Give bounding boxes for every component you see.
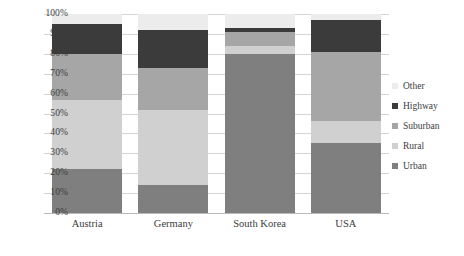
y-tick-label: 90% [30, 29, 68, 39]
x-axis-label-usa: USA [311, 218, 381, 229]
gridline-0 [44, 213, 389, 214]
legend-item-urban[interactable]: Urban [392, 156, 462, 176]
bar-segment-highway[interactable] [138, 30, 208, 68]
plot-area [44, 14, 389, 213]
x-axis-label-austria: Austria [52, 218, 122, 229]
legend-item-rural[interactable]: Rural [392, 136, 462, 156]
legend-label: Highway [403, 101, 438, 111]
y-tick-label: 20% [30, 168, 68, 178]
y-tick-label: 10% [30, 188, 68, 198]
bar-segment-suburban[interactable] [311, 52, 381, 122]
legend-item-highway[interactable]: Highway [392, 96, 462, 116]
y-tick-label: 50% [30, 109, 68, 119]
bar-segment-rural[interactable] [138, 110, 208, 186]
legend-swatch-icon [392, 83, 398, 89]
bar-group [44, 14, 389, 213]
y-tick-label: 30% [30, 148, 68, 158]
stacked-bar-chart: 100%90%80%70%60%50%40%30%20%10%0% Austri… [0, 0, 464, 256]
x-axis-label-south-korea: South Korea [225, 218, 295, 229]
bar-germany[interactable] [138, 14, 208, 213]
x-axis-label-germany: Germany [138, 218, 208, 229]
legend-label: Other [403, 81, 425, 91]
legend-label: Suburban [403, 121, 439, 131]
legend-swatch-icon [392, 103, 398, 109]
bar-segment-rural[interactable] [225, 46, 295, 54]
bar-segment-urban[interactable] [138, 185, 208, 213]
legend-swatch-icon [392, 143, 398, 149]
y-tick-label: 40% [30, 128, 68, 138]
bar-segment-highway[interactable] [311, 20, 381, 52]
bar-segment-other[interactable] [225, 14, 295, 28]
legend-item-other[interactable]: Other [392, 76, 462, 96]
bar-segment-urban[interactable] [225, 54, 295, 213]
x-axis-labels: AustriaGermanySouth KoreaUSA [44, 218, 389, 229]
y-tick-label: 0% [30, 208, 68, 218]
bar-south-korea[interactable] [225, 14, 295, 213]
legend-swatch-icon [392, 163, 398, 169]
y-tick-label: 100% [30, 9, 68, 19]
bar-segment-other[interactable] [138, 14, 208, 30]
legend-swatch-icon [392, 123, 398, 129]
bar-segment-suburban[interactable] [225, 32, 295, 46]
legend: OtherHighwaySuburbanRuralUrban [392, 76, 462, 176]
bar-segment-urban[interactable] [311, 143, 381, 213]
legend-label: Urban [403, 161, 427, 171]
y-tick-label: 70% [30, 69, 68, 79]
bar-segment-suburban[interactable] [138, 68, 208, 110]
bar-segment-rural[interactable] [311, 121, 381, 143]
legend-label: Rural [403, 141, 424, 151]
legend-item-suburban[interactable]: Suburban [392, 116, 462, 136]
y-tick-label: 60% [30, 89, 68, 99]
bar-usa[interactable] [311, 14, 381, 213]
y-tick-label: 80% [30, 49, 68, 59]
